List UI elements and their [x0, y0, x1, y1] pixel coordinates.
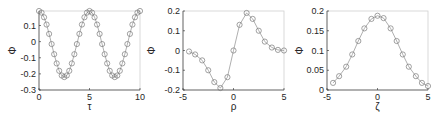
y-tick-label: -0.2	[20, 69, 36, 79]
x-tick-label: 10	[135, 92, 145, 102]
y-tick-label: 0.1	[23, 21, 36, 31]
y-tick-label: 0.1	[167, 26, 180, 36]
y-axis-label: Φ	[146, 46, 157, 54]
y-tick-label: 0.2	[167, 6, 180, 16]
x-tick-label: -5	[323, 92, 331, 102]
x-tick-label: 5	[281, 92, 286, 102]
y-tick-label: 0	[31, 37, 36, 47]
data-point-marker	[186, 49, 191, 54]
x-tick-label: 5	[425, 92, 430, 102]
y-tick-label: 0	[175, 46, 180, 56]
y-axis-label: Φ	[294, 46, 305, 54]
y-tick-label: 0.15	[306, 26, 324, 36]
figure: 0510-0.3-0.2-0.100.1τΦ -505-0.2-0.100.10…	[0, 0, 445, 121]
x-axis-label: τ	[88, 101, 92, 112]
y-tick-label: -0.1	[20, 53, 36, 63]
x-tick-label: -5	[179, 92, 187, 102]
x-tick-label: 0	[36, 92, 41, 102]
y-axis-label: Φ	[7, 46, 18, 54]
y-tick-label: -0.2	[164, 85, 180, 95]
y-tick-label: 0.05	[306, 65, 324, 75]
y-tick-label: -0.1	[164, 65, 180, 75]
y-tick-label: 0.2	[311, 6, 324, 16]
subplot-rho: -505-0.2-0.100.10.2ρΦ	[146, 6, 287, 112]
subplot-tau: 0510-0.3-0.2-0.100.1τΦ	[7, 8, 145, 112]
x-axis-label: ζ	[375, 101, 380, 113]
data-line	[189, 13, 284, 88]
y-tick-label: 0	[319, 85, 324, 95]
subplot-zeta: -50500.050.10.150.2ζΦ	[294, 6, 431, 113]
data-line	[333, 16, 428, 86]
axes-frame	[327, 11, 428, 90]
data-point-marker	[330, 80, 335, 85]
y-tick-label: 0.1	[311, 46, 324, 56]
axes-frame	[39, 11, 140, 90]
y-tick-label: -0.3	[20, 85, 36, 95]
x-axis-label: ρ	[231, 101, 237, 112]
